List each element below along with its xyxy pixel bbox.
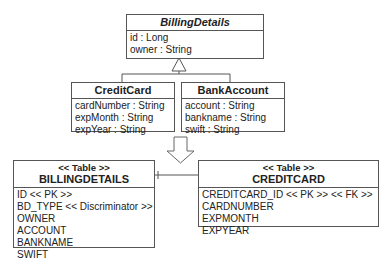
- table-column: SWIFT: [17, 249, 151, 258]
- class-name: BankAccount: [182, 83, 284, 99]
- table-billingdetails: << Table >> BILLINGDETAILS ID << PK >> B…: [13, 160, 155, 248]
- class-billing-details: BillingDetails id : Long owner : String: [126, 14, 264, 59]
- mapping-arrow-icon: [167, 137, 194, 163]
- table-column: EXPYEAR: [202, 225, 375, 237]
- inheritance-triangle-icon: [172, 58, 186, 71]
- table-column: ACCOUNT: [17, 225, 151, 237]
- class-attribute: bankname : String: [185, 112, 281, 124]
- class-attribute: owner : String: [130, 44, 260, 56]
- table-column: BANKNAME: [17, 237, 151, 249]
- class-attribute: id : Long: [130, 32, 260, 44]
- table-column: ID << PK >>: [17, 189, 151, 201]
- class-bank-account: BankAccount account : String bankname : …: [181, 82, 285, 132]
- table-column: BD_TYPE << Discriminator >>: [17, 201, 151, 213]
- class-attribute: expYear : String: [75, 124, 171, 136]
- table-stereotype: << Table >>: [14, 162, 154, 173]
- table-creditcard: << Table >> CREDITCARD CREDITCARD_ID << …: [198, 160, 379, 227]
- class-credit-card: CreditCard cardNumber : String expMonth …: [71, 82, 175, 132]
- table-column: CARDNUMBER: [202, 201, 375, 213]
- table-column: CREDITCARD_ID << PK >> << FK >>: [202, 189, 375, 201]
- class-attribute: account : String: [185, 100, 281, 112]
- class-attribute: expMonth : String: [75, 112, 171, 124]
- table-name: BILLINGDETAILS: [39, 173, 129, 185]
- class-name: CreditCard: [72, 83, 174, 99]
- table-column: OWNER: [17, 213, 151, 225]
- table-name: CREDITCARD: [252, 173, 325, 185]
- class-name: BillingDetails: [127, 15, 263, 31]
- class-attribute: swift : String: [185, 124, 281, 136]
- table-stereotype: << Table >>: [199, 162, 378, 173]
- class-attribute: cardNumber : String: [75, 100, 171, 112]
- table-column: EXPMONTH: [202, 213, 375, 225]
